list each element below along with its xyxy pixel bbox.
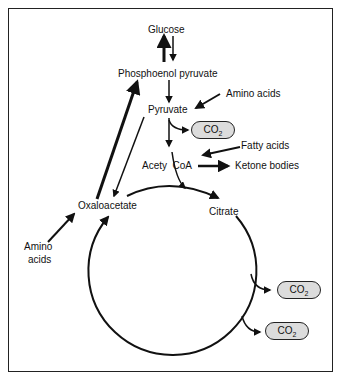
acetyl-coa-label: Acety CoA: [142, 160, 192, 172]
ketone-bodies-label: Ketone bodies: [235, 160, 299, 172]
co2-text: CO: [204, 124, 219, 135]
metabolic-pathway-diagram: Glucose Phosphoenol pyruvate Amino acids…: [0, 0, 343, 378]
glucose-label: Glucose: [148, 24, 185, 36]
amino-acids-label-left-2: acids: [28, 254, 51, 266]
oxaloacetate-label: Oxaloacetate: [78, 200, 137, 212]
phosphoenol-pyruvate-label: Phosphoenol pyruvate: [118, 68, 218, 80]
co2-pill-1: CO2: [191, 121, 235, 139]
co2-pill-2: CO2: [277, 281, 321, 299]
amino-acids-label-top: Amino acids: [226, 88, 280, 100]
co2-subscript: 2: [219, 130, 223, 137]
co2-subscript: 2: [305, 290, 309, 297]
co2-subscript: 2: [293, 331, 297, 338]
citrate-label: Citrate: [209, 206, 238, 218]
fatty-acids-label: Fatty acids: [241, 140, 289, 152]
pyruvate-label: Pyruvate: [148, 104, 187, 116]
co2-pill-3: CO2: [265, 322, 309, 340]
co2-text: CO: [278, 325, 293, 336]
amino-acids-label-left-1: Amino: [24, 241, 52, 253]
co2-text: CO: [290, 284, 305, 295]
